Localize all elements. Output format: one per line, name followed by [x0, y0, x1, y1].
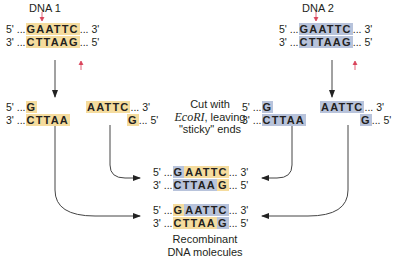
- dna2-bottom-strand: 3' ...CTTAAG... 5': [279, 36, 372, 48]
- recombinant2-top-strand: 5' ...GAATTC... 3': [153, 204, 248, 216]
- recombinant2-bottom-strand: 3' ...CTTAAG... 5': [153, 217, 248, 229]
- dna1-right-fragment-top: AATTC... 3': [86, 101, 150, 113]
- recombinant1-bottom-strand: 3' ...CTTAAG... 5': [153, 179, 248, 191]
- dna2-left-fragment-top: 5' ...G: [242, 101, 273, 113]
- recombinant-caption: Recombinant DNA molecules: [150, 233, 260, 258]
- dna1-top-strand: 5' ...GAATTC... 3': [6, 23, 99, 35]
- dna2-left-fragment-bottom: 3' ...CTTAA: [242, 114, 306, 126]
- dna1-left-fragment-top: 5' ...G: [6, 101, 37, 113]
- dna2-label: DNA 2: [302, 2, 334, 14]
- dna1-right-fragment-bottom: G... 5': [127, 114, 158, 126]
- dna2-right-fragment-top: AATTC... 3': [320, 101, 384, 113]
- dna2-top-strand: 5' ...GAATTC... 3': [279, 23, 372, 35]
- dna1-label: DNA 1: [29, 2, 61, 14]
- recombinant1-top-strand: 5' ...GAATTC... 3': [153, 166, 248, 178]
- dna2-right-fragment-bottom: G... 5': [360, 114, 391, 126]
- dna1-bottom-strand: 3' ...CTTAAG... 5': [6, 36, 99, 48]
- dna1-left-fragment-bottom: 3' ...CTTAA: [6, 114, 70, 126]
